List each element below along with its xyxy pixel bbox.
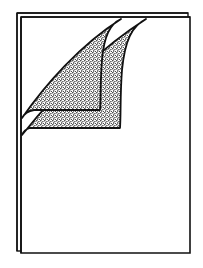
curled-pages-illustration xyxy=(0,0,203,268)
